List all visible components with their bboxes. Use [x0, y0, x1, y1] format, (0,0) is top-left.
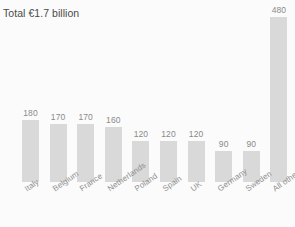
bar-value-label: 120: [134, 129, 148, 139]
bar-value-label: 120: [189, 129, 203, 139]
bar-group: 90: [243, 17, 260, 182]
bar-group: 120: [188, 17, 205, 182]
bar-group: 90: [215, 17, 232, 182]
bar: [22, 120, 39, 182]
bar-group: 120: [132, 17, 149, 182]
bar: [50, 124, 67, 182]
bar-group: 180: [22, 17, 39, 182]
bar-value-label: 120: [161, 129, 175, 139]
x-axis-labels: ItalyBelgiumFranceNetherlandsPolandSpain…: [0, 182, 295, 227]
bar: [105, 127, 122, 182]
bar-group: 120: [160, 17, 177, 182]
bar: [188, 141, 205, 182]
bar-value-label: 170: [78, 112, 92, 122]
bar-value-label: 170: [51, 112, 65, 122]
plot-area: 1801701701601201201209090480: [0, 0, 295, 182]
bar-value-label: 180: [23, 108, 37, 118]
x-axis-label: UK: [189, 180, 203, 194]
bar-value-label: 480: [272, 5, 286, 15]
bar-group: 170: [50, 17, 67, 182]
bar-value-label: 160: [106, 115, 120, 125]
bar-value-label: 90: [219, 139, 229, 149]
bar-group: 170: [77, 17, 94, 182]
bar: [270, 17, 287, 182]
bar: [77, 124, 94, 182]
bar-chart: Total €1.7 billion 180170170160120120120…: [0, 0, 295, 227]
bar-value-label: 90: [246, 139, 256, 149]
bar-group: 480: [270, 17, 287, 182]
bar-group: 160: [105, 17, 122, 182]
